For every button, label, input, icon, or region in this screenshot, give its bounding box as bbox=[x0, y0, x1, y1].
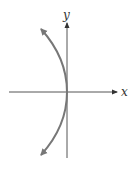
parabola-upper-branch bbox=[41, 29, 67, 92]
parabola-diagram: y x bbox=[0, 0, 132, 169]
x-axis-label: x bbox=[121, 85, 128, 99]
parabola-lower-branch bbox=[41, 92, 67, 155]
y-axis-label: y bbox=[62, 8, 70, 22]
